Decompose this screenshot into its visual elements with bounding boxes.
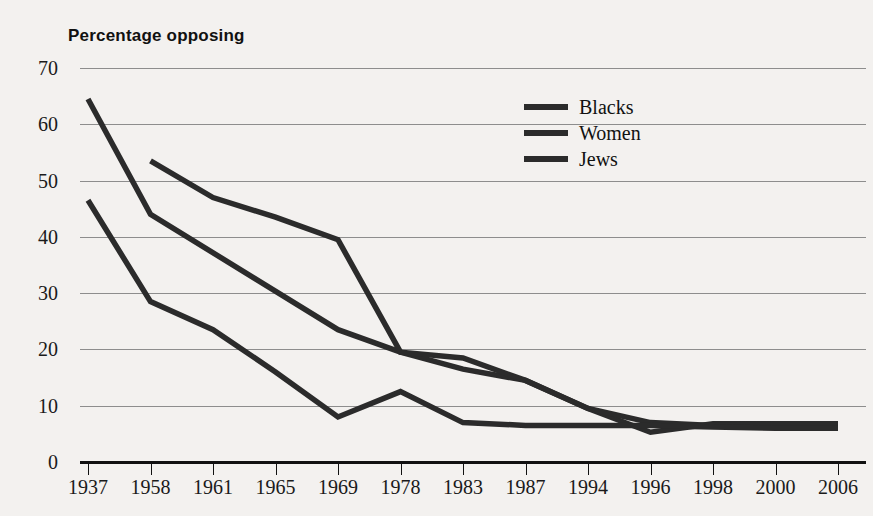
legend-label: Jews — [579, 148, 618, 171]
legend-item[interactable]: Blacks — [524, 94, 714, 120]
legend-label: Women — [579, 122, 641, 145]
series-line-jews — [88, 200, 838, 428]
legend-swatch-icon — [524, 130, 568, 136]
chart-legend: BlacksWomenJews — [524, 94, 714, 172]
legend-item[interactable]: Jews — [524, 146, 714, 172]
legend-label: Blacks — [579, 96, 633, 119]
series-lines — [0, 0, 873, 516]
series-line-women — [151, 161, 839, 426]
legend-swatch-icon — [524, 104, 568, 110]
legend-item[interactable]: Women — [524, 120, 714, 146]
legend-swatch-icon — [524, 156, 568, 162]
chart-container: Percentage opposing 706050403020100 1937… — [0, 0, 873, 516]
